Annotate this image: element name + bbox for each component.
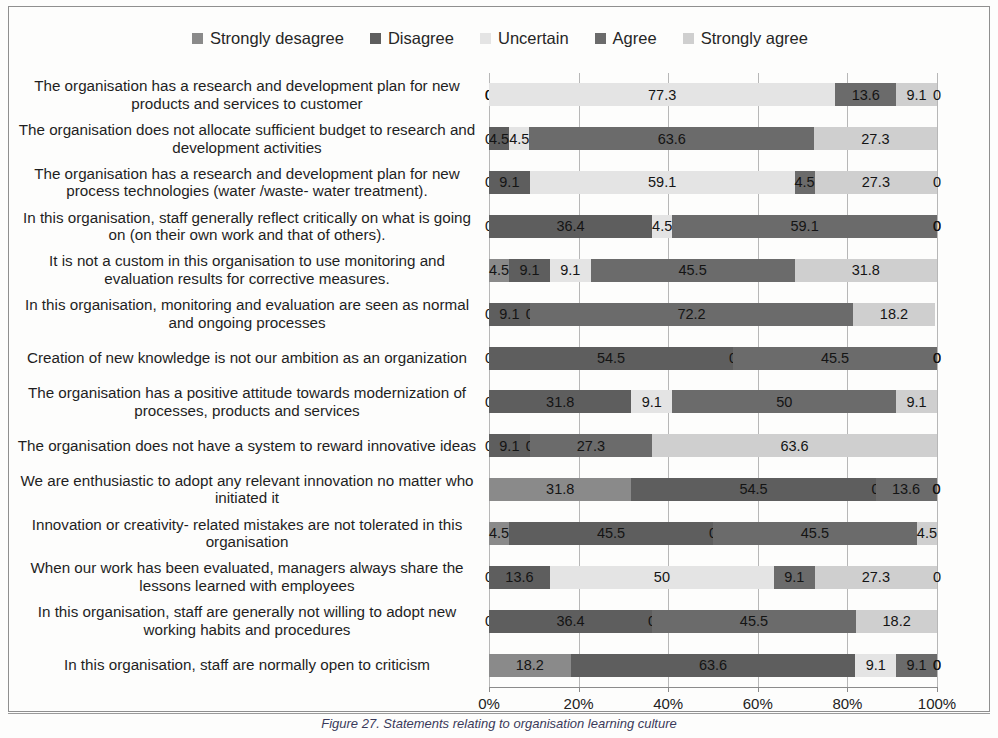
bar-segment: 59.1: [530, 171, 795, 194]
legend-square-icon: [595, 33, 606, 44]
bar-segment-value-label: 27.3: [577, 439, 605, 454]
bar-segment: 31.8: [795, 259, 937, 282]
bar-segment-value-label: 63.6: [699, 658, 727, 673]
bar-segment-value-label: 63.6: [780, 439, 808, 454]
bar-segment: 9.1: [509, 259, 550, 282]
bar-segment: 9.1: [855, 654, 896, 677]
caption-divider: [8, 713, 990, 714]
x-axis-tick-mark: [847, 687, 848, 692]
bar-segment-value-label: 45.5: [801, 526, 829, 541]
category-label: When our work has been evaluated, manage…: [13, 559, 481, 595]
bar-segment: 31.8: [489, 478, 631, 501]
bar-segment: 9.1: [774, 566, 815, 589]
x-axis-tick-mark: [758, 687, 759, 692]
stacked-bar: 31.854.5013.600: [489, 478, 937, 501]
stacked-bar: 031.89.1509.1: [489, 390, 937, 413]
stacked-bar: 036.44.559.100: [489, 215, 937, 238]
bar-segment: 13.6: [876, 478, 937, 501]
legend-item: Strongly desagree: [192, 29, 344, 48]
bar-segment-value-label: 18.2: [883, 614, 911, 629]
chart-legend: Strongly desagreeDisagreeUncertainAgreeS…: [9, 29, 991, 48]
legend-label: Disagree: [388, 29, 454, 48]
grid-line: [668, 73, 669, 687]
bar-segment-value-label: 9.1: [907, 658, 927, 673]
bar-segment-value-label: 36.4: [556, 614, 584, 629]
bar-segment: 54.5: [631, 478, 875, 501]
category-label: In this organisation, staff are normally…: [13, 656, 481, 674]
bar-segment: 27.3: [530, 434, 652, 457]
category-label: The organisation does not allocate suffi…: [13, 121, 481, 157]
bar-segment: 31.8: [489, 390, 631, 413]
bar-segment: 9.1: [631, 390, 672, 413]
category-label: Creation of new knowledge is not our amb…: [13, 349, 481, 367]
bar-segment: 9.1: [896, 83, 937, 106]
category-label: Innovation or creativity- related mistak…: [13, 516, 481, 552]
bar-segment-value-label: 13.6: [892, 482, 920, 497]
category-label: It is not a custom in this organisation …: [13, 252, 481, 288]
category-label: In this organisation, staff generally re…: [13, 209, 481, 245]
bar-segment: 36.4: [489, 215, 652, 238]
bar-segment: 45.5: [652, 610, 856, 633]
bar-segment-value-label: 4.5: [917, 526, 937, 541]
stacked-bar: 18.263.69.19.100: [489, 654, 937, 677]
bar-segment: 4.5: [509, 127, 529, 150]
bar-segment: 27.3: [815, 171, 937, 194]
grid-line: [847, 73, 848, 687]
bar-segment-value-label: 54.5: [739, 482, 767, 497]
bars-column: 0%20%40%60%80%100%0077.313.69.1004.54.56…: [489, 73, 937, 687]
x-axis-tick-label: 100%: [918, 695, 956, 712]
bar-segment-value-label: 50: [776, 395, 792, 410]
x-axis-tick-label: 0%: [478, 695, 500, 712]
x-axis-tick-mark: [937, 687, 938, 692]
bar-segment-value-label: 9.1: [499, 307, 519, 322]
x-axis-tick-mark: [668, 687, 669, 692]
bar-segment-value-label: 63.6: [658, 132, 686, 147]
bar-segment: 9.1: [896, 390, 937, 413]
category-label: The organisation has a research and deve…: [13, 165, 481, 201]
bar-segment: 45.5: [713, 522, 917, 545]
bar-segment-value-label: 9.1: [560, 263, 580, 278]
bar-segment-value-label: 31.8: [546, 395, 574, 410]
bar-segment-value-label: 4.5: [795, 175, 815, 190]
stacked-bar: 09.1072.218.2: [489, 303, 937, 326]
stacked-bar: 036.4045.518.2: [489, 610, 937, 633]
grid-line: [937, 73, 938, 687]
bar-segment-value-label: 59.1: [790, 219, 818, 234]
bar-segment-value-label: 4.5: [489, 132, 509, 147]
bar-segment-value-label: 9.1: [784, 570, 804, 585]
bar-segment: 9.1: [489, 171, 530, 194]
bar-segment-value-label: 45.5: [597, 526, 625, 541]
legend-label: Strongly desagree: [210, 29, 344, 48]
category-label: The organisation has a positive attitude…: [13, 384, 481, 420]
bar-segment: 4.5: [795, 171, 815, 194]
stacked-bar: 0077.313.69.10: [489, 83, 937, 106]
bar-segment-value-label: 31.8: [852, 263, 880, 278]
bar-segment-value-label: 4.5: [652, 219, 672, 234]
x-axis-tick-mark: [579, 687, 580, 692]
bar-segment: 13.6: [835, 83, 896, 106]
legend-label: Uncertain: [498, 29, 569, 48]
bar-segment-value-label: 9.1: [907, 88, 927, 103]
bar-segment: 4.5: [489, 127, 509, 150]
stacked-bar: 4.59.19.145.531.8: [489, 259, 937, 282]
x-axis-tick-mark: [489, 687, 490, 692]
bar-segment: 4.5: [652, 215, 672, 238]
bar-segment: 54.5: [489, 347, 733, 370]
bar-segment-value-label: 9.1: [866, 658, 886, 673]
stacked-bar: 4.545.5045.54.5: [489, 522, 937, 545]
bar-segment-value-label: 45.5: [821, 351, 849, 366]
bar-segment-value-label: 72.2: [677, 307, 705, 322]
bar-segment: 59.1: [672, 215, 937, 238]
bar-segment-value-label: 54.5: [597, 351, 625, 366]
bar-segment-value-label: 9.1: [642, 395, 662, 410]
x-axis-tick-label: 40%: [653, 695, 683, 712]
bar-segment: 9.1: [489, 303, 530, 326]
bar-segment-value-label: 27.3: [862, 175, 890, 190]
bar-segment: 18.2: [856, 610, 938, 633]
legend-label: Strongly agree: [701, 29, 808, 48]
bar-segment-value-label: 13.6: [505, 570, 533, 585]
bar-segment: 45.5: [591, 259, 795, 282]
bar-segment-value-label: 13.6: [852, 88, 880, 103]
legend-item: Uncertain: [480, 29, 569, 48]
bar-segment: 63.6: [571, 654, 856, 677]
